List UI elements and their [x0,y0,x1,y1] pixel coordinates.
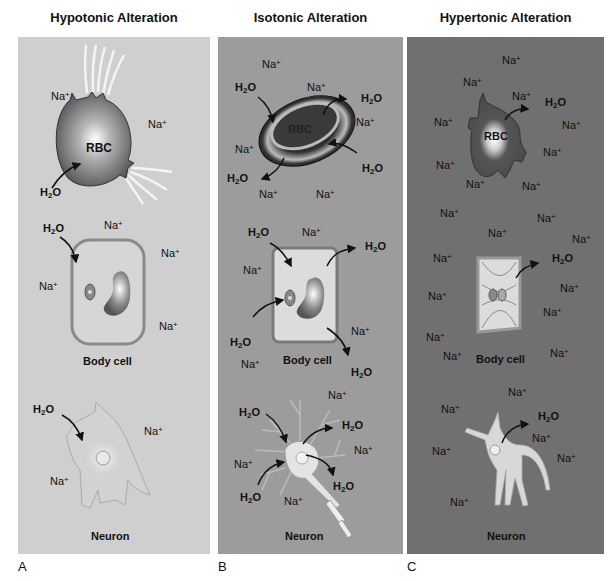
na-ion-label: Na+ [543,306,562,318]
body-cell-label: Body cell [283,354,332,366]
na-ion-label: Na+ [316,188,335,200]
na-ion-label: Na+ [463,76,482,88]
na-ion-label: Na+ [433,252,452,264]
na-ion-label: Na+ [466,178,485,190]
na-ion-label: Na+ [512,90,531,102]
na-ion-label: Na+ [259,188,278,200]
panel-letter-c: C [407,559,416,574]
rbc-label: RBC [86,141,112,155]
na-ion-label: Na+ [450,496,469,508]
na-ion-label: Na+ [354,444,373,456]
na-ion-label: Na+ [443,350,462,362]
na-ion-label: Na+ [234,458,253,470]
na-ion-label: Na+ [488,227,507,239]
h2o-label: H2O [240,491,261,505]
h2o-label: H2O [361,92,382,106]
na-ion-label: Na+ [104,219,123,231]
na-ion-label: Na+ [50,475,69,487]
na-ion-label: Na+ [508,386,527,398]
na-ion-label: Na+ [550,347,569,359]
na-ion-label: Na+ [522,180,541,192]
panel-letter-a: A [18,559,27,574]
neuron-label: Neuron [285,530,324,542]
na-ion-label: Na+ [562,119,581,131]
h2o-label: H2O [248,226,269,240]
neuron-label: Neuron [487,530,526,542]
h2o-label: H2O [230,336,251,350]
h2o-label: H2O [235,81,256,95]
body-cell-normal [72,240,144,344]
body-cell-label: Body cell [83,355,132,367]
neuron-label: Neuron [91,530,130,542]
neuron-swollen [66,402,150,508]
na-ion-label: Na+ [161,247,180,259]
na-ion-label: Na+ [241,358,260,370]
h2o-label: H2O [333,480,354,494]
na-ion-label: Na+ [262,58,281,70]
neuron-shrunken [465,412,550,506]
h2o-label: H2O [43,222,64,236]
na-ion-label: Na+ [543,146,562,158]
na-ion-label: Na+ [39,280,58,292]
h2o-label: H2O [342,419,363,433]
na-ion-label: Na+ [502,54,521,66]
h2o-label: H2O [239,406,260,420]
na-ion-label: Na+ [328,389,347,401]
na-ion-label: Na+ [537,212,556,224]
na-ion-label: Na+ [557,452,576,464]
na-ion-label: Na+ [560,282,579,294]
body-cell-label: Body cell [476,353,525,365]
h2o-label: H2O [40,186,61,200]
na-ion-label: Na+ [572,233,591,245]
h2o-label: H2O [545,96,566,110]
na-ion-label: Na+ [434,116,453,128]
na-ion-label: Na+ [144,425,163,437]
na-ion-label: Na+ [356,116,375,128]
na-ion-label: Na+ [428,290,447,302]
na-ion-label: Na+ [441,403,460,415]
na-ion-label: Na+ [307,81,326,93]
h2o-label: H2O [552,252,573,266]
h2o-label: H2O [365,240,386,254]
rbc-label: RBC [288,123,312,135]
panel-letter-b: B [218,559,227,574]
h2o-label: H2O [33,403,54,417]
na-ion-label: Na+ [532,432,551,444]
h2o-label: H2O [362,162,383,176]
h2o-label: H2O [538,410,559,424]
h2o-label: H2O [227,172,248,186]
na-ion-label: Na+ [440,207,459,219]
rbc-label: RBC [484,130,508,142]
na-ion-label: Na+ [284,495,303,507]
na-ion-label: Na+ [351,325,370,337]
na-ion-label: Na+ [159,320,178,332]
na-ion-label: Na+ [235,143,254,155]
h2o-label: H2O [351,366,372,380]
na-ion-label: Na+ [302,226,321,238]
na-ion-label: Na+ [436,159,455,171]
body-cell-shrunken [478,258,520,332]
na-ion-label: Na+ [148,118,167,130]
na-ion-label: Na+ [432,445,451,457]
na-ion-label: Na+ [243,264,262,276]
na-ion-label: Na+ [51,90,70,102]
na-ion-label: Na+ [426,331,445,343]
cell-illustrations [0,0,612,581]
